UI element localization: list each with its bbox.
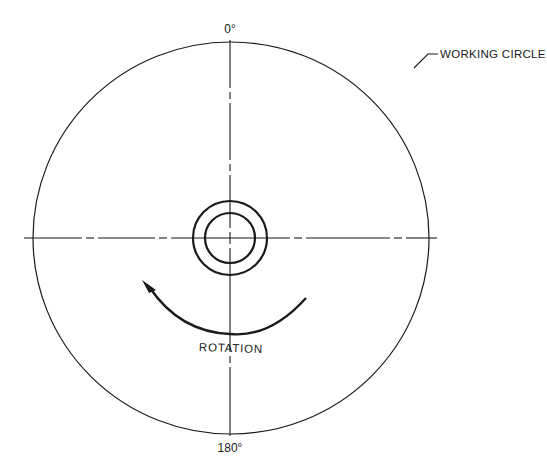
working-circle-diagram: 0° 180° WORKING CIRCLE ROTATION bbox=[0, 0, 547, 468]
working-circle-leader bbox=[414, 54, 438, 68]
label-180-degrees: 180° bbox=[218, 441, 243, 455]
label-0-degrees: 0° bbox=[224, 22, 236, 36]
label-working-circle: WORKING CIRCLE bbox=[440, 48, 546, 60]
rotation-arrow-arc bbox=[150, 288, 306, 334]
label-rotation: ROTATION bbox=[199, 341, 263, 355]
rotation-arrowhead-icon bbox=[142, 280, 156, 293]
